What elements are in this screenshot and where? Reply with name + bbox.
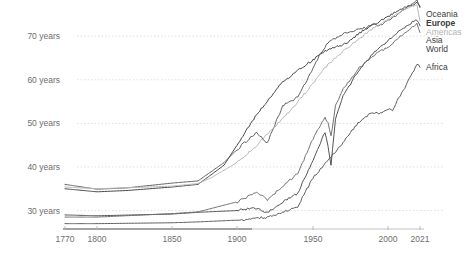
x-tick-label: 2000 <box>379 234 398 244</box>
x-axis-tick-labels: 1770180018501900195020002021 <box>56 234 430 244</box>
y-tick-label: 40 years <box>27 162 60 172</box>
x-tick-label: 1800 <box>88 234 107 244</box>
x-tick-label: 1950 <box>304 234 323 244</box>
x-tick-label: 1850 <box>163 234 182 244</box>
series-lines-group <box>65 0 420 224</box>
y-axis-tick-labels: 30 years40 years50 years60 years70 years <box>27 31 60 215</box>
gridlines-group <box>77 36 443 210</box>
legend-item-world[interactable]: World <box>426 45 448 54</box>
series-line-europe[interactable] <box>65 0 420 189</box>
y-tick-label: 30 years <box>27 206 60 216</box>
y-tick-label: 50 years <box>27 118 60 128</box>
x-tick-label: 2021 <box>411 234 430 244</box>
chart-plot-area: 30 years40 years50 years60 years70 years… <box>0 0 470 259</box>
x-tick-label: 1770 <box>56 234 75 244</box>
y-tick-label: 60 years <box>27 75 60 85</box>
life-expectancy-chart: 30 years40 years50 years60 years70 years… <box>0 0 470 259</box>
series-line-asia[interactable] <box>65 20 420 216</box>
x-tick-label: 1900 <box>228 234 247 244</box>
africa-series-label: Africa <box>426 63 448 72</box>
series-line-oceania[interactable] <box>65 2 420 192</box>
x-axis <box>63 226 424 230</box>
y-tick-label: 70 years <box>27 31 60 41</box>
series-line-americas[interactable] <box>65 5 420 189</box>
